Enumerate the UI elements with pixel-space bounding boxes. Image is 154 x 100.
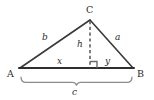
vertex-label-c: C [86, 5, 93, 15]
segment-label-h: h [77, 40, 83, 49]
triangle-diagram: A B C b a c h x y [0, 0, 154, 100]
diagram-canvas [0, 0, 154, 100]
segment-label-x: x [57, 57, 62, 66]
side-label-b: b [42, 33, 48, 42]
side-label-c: c [72, 88, 77, 97]
side-label-a: a [115, 33, 120, 42]
vertex-label-b: B [137, 69, 144, 79]
vertex-label-a: A [7, 69, 14, 79]
base-brace [21, 77, 132, 85]
segment-label-y: y [105, 57, 110, 66]
